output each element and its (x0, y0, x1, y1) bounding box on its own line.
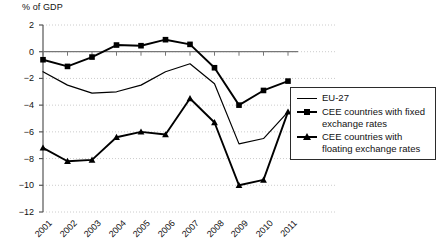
x-axis-tick-label: 2001 (27, 218, 54, 245)
legend-item-fixed: CEE countries with fixed exchange rates (295, 106, 431, 129)
legend-triangle-marker-icon (295, 132, 319, 143)
x-axis-tick-label: 2005 (125, 218, 152, 245)
legend-line-icon (295, 93, 319, 104)
legend-label: CEE countries with floating exchange rat… (322, 131, 431, 154)
legend-square-marker-icon (295, 107, 319, 118)
x-axis-tick-label: 2007 (174, 218, 201, 245)
legend-item-floating: CEE countries with floating exchange rat… (295, 131, 431, 154)
x-axis-tick-label: 2006 (150, 218, 177, 245)
x-axis-tick-label: 2003 (76, 218, 103, 245)
x-axis-tick-label: 2004 (101, 218, 128, 245)
x-axis-tick-label: 2010 (248, 218, 275, 245)
legend-label: CEE countries with fixed exchange rates (322, 106, 431, 129)
x-axis-tick-label: 2008 (199, 218, 226, 245)
x-axis-tick-label: 2009 (223, 218, 250, 245)
x-axis-tick-label: 2002 (52, 218, 79, 245)
legend-item-eu27: EU-27 (295, 92, 431, 104)
chart-figure: % of GDP 20−2−4−6−8−10−12 20012002200320… (0, 0, 439, 251)
legend-label: EU-27 (322, 92, 349, 104)
chart-legend: EU-27 CEE countries with fixed exchange … (290, 87, 436, 160)
x-axis-tick-label: 2011 (272, 218, 299, 245)
